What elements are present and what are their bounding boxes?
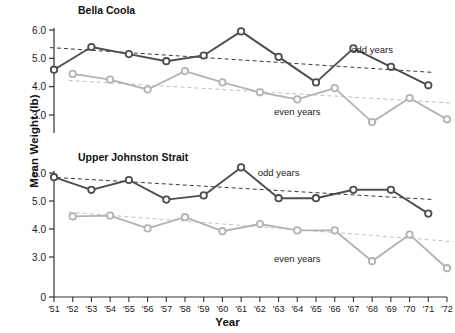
panel-title-top: Bella Coola [78, 4, 135, 16]
x-tick-label: '72 [441, 304, 453, 314]
data-point-marker [332, 227, 338, 233]
y-axis-title: Mean Weight (lb) [28, 61, 40, 221]
data-point-marker [163, 58, 169, 64]
data-point-marker [144, 86, 150, 92]
data-point-marker [275, 195, 281, 201]
x-tick-label: '66 [329, 304, 341, 314]
series-lines-top [51, 28, 450, 125]
x-tick-label: '64 [291, 304, 303, 314]
data-point-marker [313, 195, 319, 201]
x-tick-label: '55 [123, 304, 135, 314]
data-point-marker [107, 76, 113, 82]
data-point-marker [406, 95, 412, 101]
data-point-marker [257, 221, 263, 227]
data-point-marker [313, 79, 319, 85]
series-line [73, 71, 447, 122]
x-tick-label: '58 [179, 304, 191, 314]
data-point-marker [163, 196, 169, 202]
data-point-marker [51, 174, 57, 180]
x-tick-label: '51 [48, 304, 60, 314]
y-tick-label: 3.0 [32, 252, 46, 263]
data-point-marker [70, 213, 76, 219]
data-point-marker [425, 210, 431, 216]
x-tick-label: '53 [86, 304, 98, 314]
y-tick-label: 6.0 [32, 25, 46, 36]
data-point-marker [88, 187, 94, 193]
data-point-marker [294, 227, 300, 233]
data-point-marker [88, 44, 94, 50]
data-point-marker [201, 52, 207, 58]
y-tick-label: 4.0 [32, 224, 46, 235]
data-point-marker [126, 177, 132, 183]
x-tick-label: '59 [198, 304, 210, 314]
x-tick-label: '56 [142, 304, 154, 314]
data-point-marker [275, 54, 281, 60]
x-tick-label: '70 [404, 304, 416, 314]
x-tick-label: '52 [67, 304, 79, 314]
series-lines-bottom [51, 164, 450, 271]
x-tick-label: '69 [385, 304, 397, 314]
series-label-annotation: odd years [351, 44, 393, 55]
series-annotations-top: odd yearseven years [274, 44, 393, 117]
y-tick-label: 0 [40, 292, 46, 303]
data-point-marker [144, 225, 150, 231]
data-point-marker [425, 82, 431, 88]
series-label-annotation: even years [274, 106, 321, 117]
x-tick-label: '62 [254, 304, 266, 314]
x-tick-label: '54 [104, 304, 116, 314]
data-point-marker [257, 89, 263, 95]
data-point-marker [388, 187, 394, 193]
data-point-marker [219, 79, 225, 85]
data-point-marker [51, 67, 57, 73]
x-axis-title: Year [0, 316, 455, 328]
data-point-marker [294, 96, 300, 102]
series-annotations-bottom: odd yearseven years [258, 167, 321, 264]
data-point-marker [444, 116, 450, 122]
panel-title-bottom: Upper Johnston Strait [78, 151, 189, 163]
x-tick-label: '63 [273, 304, 285, 314]
series-line [54, 167, 428, 213]
x-tick-label: '68 [366, 304, 378, 314]
data-point-marker [350, 187, 356, 193]
data-point-marker [107, 212, 113, 218]
data-point-marker [201, 192, 207, 198]
figure-canvas: Mean Weight (lb) Year Bella Coola 6.05.0… [0, 0, 455, 333]
data-point-marker [238, 164, 244, 170]
data-point-marker [126, 51, 132, 57]
data-point-marker [332, 85, 338, 91]
data-point-marker [182, 214, 188, 220]
series-label-annotation: even years [274, 253, 321, 264]
x-axis: '51'52'53'54'55'56'57'58'59'60'61'62'63'… [48, 297, 453, 314]
panel-bella-coola: Bella Coola 6.05.04.03.0 odd yearseven y… [32, 4, 453, 133]
data-point-marker [369, 258, 375, 264]
data-point-marker [388, 64, 394, 70]
data-point-marker [238, 28, 244, 34]
x-tick-label: '61 [235, 304, 247, 314]
x-tick-label: '60 [217, 304, 229, 314]
x-tick-label: '71 [422, 304, 434, 314]
data-point-marker [406, 231, 412, 237]
trendlines-top [50, 48, 453, 104]
x-tick-label: '57 [160, 304, 172, 314]
data-point-marker [70, 71, 76, 77]
data-point-marker [219, 228, 225, 234]
series-label-annotation: odd years [258, 167, 300, 178]
panel-upper-johnston-strait: Upper Johnston Strait 6.05.04.03.00 odd … [32, 151, 453, 314]
data-point-marker [444, 265, 450, 271]
trendline [50, 177, 434, 199]
x-tick-label: '65 [310, 304, 322, 314]
chart-svg: Bella Coola 6.05.04.03.0 odd yearseven y… [0, 0, 455, 333]
data-point-marker [369, 119, 375, 125]
data-point-marker [182, 68, 188, 74]
x-tick-label: '67 [348, 304, 360, 314]
